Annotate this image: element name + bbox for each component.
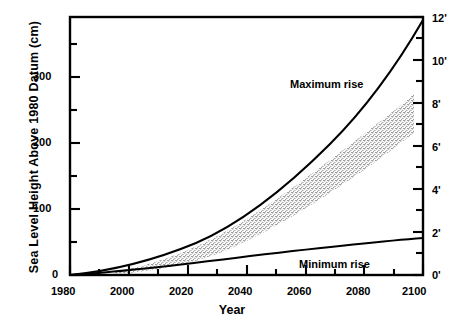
plot-area [0,0,464,330]
y-right-axis-major-ticks [413,17,423,275]
uncertainty-band [114,94,414,274]
sea-level-rise-chart: Sea Level Height Above 1980 Datum (cm) Y… [0,0,464,330]
